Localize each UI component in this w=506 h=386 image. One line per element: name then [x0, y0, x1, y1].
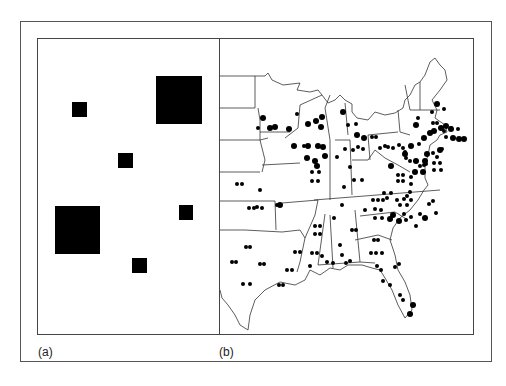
small-dot — [350, 228, 354, 232]
small-dot — [431, 121, 435, 125]
large-dot — [461, 136, 467, 142]
small-dot — [401, 179, 405, 183]
large-dot — [272, 124, 278, 130]
large-dot — [422, 215, 428, 221]
small-square — [72, 102, 87, 117]
small-dot — [310, 251, 314, 255]
small-dot — [409, 215, 413, 219]
small-dot — [352, 178, 356, 182]
small-dot — [374, 135, 378, 139]
large-square — [156, 76, 202, 124]
small-dot — [397, 143, 401, 147]
small-dot — [371, 198, 375, 202]
large-dot — [320, 144, 326, 150]
large-dot — [421, 135, 427, 141]
large-dot — [286, 126, 292, 132]
small-dot — [258, 188, 262, 192]
large-dot — [291, 143, 297, 149]
small-dot — [379, 268, 383, 272]
small-dot — [374, 251, 378, 255]
small-dot — [248, 282, 252, 286]
small-dot — [342, 185, 346, 189]
small-dot — [456, 127, 460, 131]
small-dot — [318, 232, 322, 236]
small-dot — [373, 207, 377, 211]
small-dot — [409, 175, 413, 179]
small-dot — [356, 145, 360, 149]
small-dot — [375, 264, 379, 268]
small-dot — [408, 159, 412, 163]
small-dot — [369, 251, 373, 255]
small-dot — [398, 293, 402, 297]
large-dot — [407, 311, 413, 317]
small-dot — [439, 168, 443, 172]
large-dot — [313, 118, 319, 124]
small-dot — [389, 191, 393, 195]
small-dot — [363, 208, 367, 212]
small-dot — [444, 135, 448, 139]
small-dot — [315, 251, 319, 255]
small-dot — [335, 155, 339, 159]
small-dot — [325, 260, 329, 264]
large-dot — [315, 143, 321, 149]
small-dot — [401, 146, 405, 150]
large-dot — [434, 101, 440, 107]
small-dot — [343, 147, 347, 151]
small-dot — [293, 250, 297, 254]
small-dot — [351, 148, 355, 152]
small-dot — [432, 161, 436, 165]
small-dot — [393, 265, 397, 269]
large-dot — [413, 158, 419, 164]
small-dot — [442, 129, 446, 133]
small-dot — [260, 206, 264, 210]
large-dot — [305, 143, 311, 149]
small-dot — [381, 198, 385, 202]
small-dot — [379, 208, 383, 212]
large-dot — [277, 202, 283, 208]
large-dot — [412, 169, 418, 175]
small-dot — [401, 173, 405, 177]
small-dot — [338, 243, 342, 247]
small-dot — [281, 283, 285, 287]
large-dot — [388, 163, 394, 169]
small-square — [132, 258, 147, 273]
large-dot — [410, 302, 416, 308]
small-dot — [435, 121, 439, 125]
small-dot — [348, 259, 352, 263]
small-dot — [354, 228, 358, 232]
small-dot — [422, 163, 426, 167]
small-dot — [310, 170, 314, 174]
small-dot — [385, 196, 389, 200]
small-dot — [409, 198, 413, 202]
small-dot — [431, 199, 435, 203]
small-dot — [396, 179, 400, 183]
small-dot — [262, 262, 266, 266]
small-dot — [316, 179, 320, 183]
small-dot — [427, 202, 431, 206]
large-square — [55, 206, 100, 254]
small-dot — [258, 262, 262, 266]
small-dot — [402, 212, 406, 216]
large-dot — [322, 153, 328, 159]
small-dot — [252, 206, 256, 210]
small-dot — [397, 262, 401, 266]
large-dot — [260, 115, 266, 121]
large-dot — [402, 151, 408, 157]
large-dot — [319, 114, 325, 120]
small-dot — [414, 224, 418, 228]
large-dot — [450, 135, 456, 141]
small-dot — [405, 194, 409, 198]
small-dot — [434, 211, 438, 215]
small-dot — [247, 206, 251, 210]
small-dot — [376, 238, 380, 242]
dot-symbols — [230, 101, 467, 317]
small-dot — [361, 147, 365, 151]
small-dot — [435, 155, 439, 159]
small-dot — [431, 151, 435, 155]
small-dot — [372, 238, 376, 242]
small-square — [118, 153, 133, 168]
large-dot — [424, 151, 430, 157]
small-dot — [401, 298, 405, 302]
small-dot — [244, 245, 248, 249]
large-dot — [443, 123, 449, 129]
